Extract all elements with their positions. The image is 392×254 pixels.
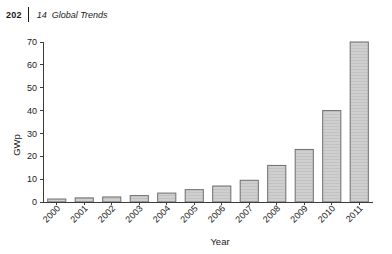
x-tick-label-2010: 2010 [316, 203, 337, 224]
chart-canvas: 010203040506070 200020012002200320042005… [0, 30, 392, 254]
x-tick-label-2003: 2003 [123, 203, 144, 224]
y-tick-label: 20 [27, 151, 37, 161]
chapter-number: 14 [29, 10, 47, 20]
bar-2001 [75, 198, 93, 202]
chapter-title: Global Trends [47, 10, 108, 20]
bar-2006 [213, 186, 231, 202]
figure-bar-chart: 010203040506070 200020012002200320042005… [0, 30, 392, 254]
x-tick-label-2011: 2011 [344, 203, 365, 224]
bar-2009 [295, 149, 313, 202]
x-tick-label-2004: 2004 [151, 203, 172, 224]
x-tick-label-2007: 2007 [233, 203, 254, 224]
x-tick-label-2005: 2005 [178, 203, 199, 224]
bar-2002 [103, 197, 121, 202]
bar-2005 [185, 190, 203, 202]
y-tick-labels: 010203040506070 [27, 37, 37, 207]
x-tick-labels: 2000200120022003200420052006200720082009… [41, 203, 365, 224]
bars-layer [48, 42, 369, 202]
y-tick-label: 10 [27, 174, 37, 184]
bar-2003 [130, 196, 148, 202]
y-tick-label: 40 [27, 106, 37, 116]
x-tick-label-2006: 2006 [206, 203, 227, 224]
bar-2004 [158, 193, 176, 202]
bar-2010 [323, 111, 341, 202]
x-tick-label-2001: 2001 [68, 203, 89, 224]
bar-2011 [350, 42, 368, 202]
y-tick-label: 60 [27, 60, 37, 70]
running-head: 202 14 Global Trends [6, 7, 108, 22]
x-tick-label-2002: 2002 [96, 203, 117, 224]
y-axis-title: GWp [11, 134, 22, 156]
x-axis-title: Year [210, 236, 229, 247]
y-tick-label: 30 [27, 129, 37, 139]
y-tick-label: 70 [27, 37, 37, 47]
x-tick-label-2000: 2000 [41, 203, 62, 224]
x-tick-label-2008: 2008 [261, 203, 282, 224]
y-tick-label: 50 [27, 83, 37, 93]
bar-2008 [268, 165, 286, 202]
page-number: 202 [6, 10, 28, 20]
x-tick-label-2009: 2009 [288, 203, 309, 224]
bar-2007 [240, 180, 258, 202]
y-tick-label: 0 [32, 197, 37, 207]
